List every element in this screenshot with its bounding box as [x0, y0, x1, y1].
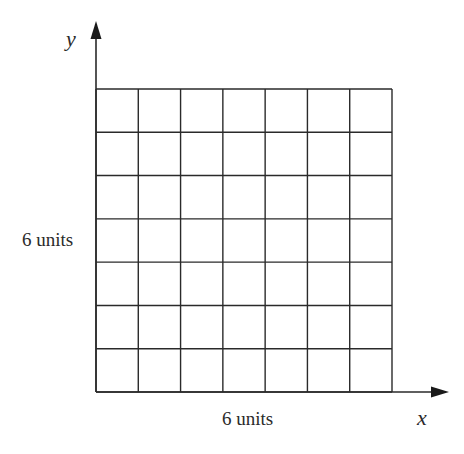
left-dimension-label: 6 units	[22, 229, 73, 251]
bottom-dimension-label: 6 units	[222, 408, 273, 430]
grid-diagram	[0, 0, 464, 454]
x-axis	[96, 387, 449, 398]
y-axis-arrow-icon	[91, 21, 102, 39]
square-grid	[96, 89, 392, 392]
y-axis-label: y	[66, 26, 76, 52]
x-axis-label: x	[417, 405, 427, 431]
x-axis-arrow-icon	[431, 387, 449, 398]
y-axis	[91, 21, 102, 392]
